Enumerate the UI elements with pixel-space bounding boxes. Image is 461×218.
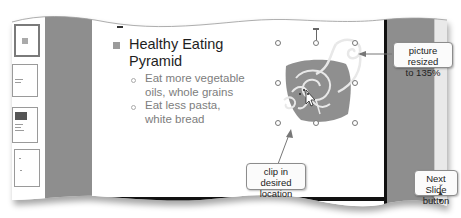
previous-slide-button[interactable]: ▲: [436, 189, 445, 197]
callout-picture-resized: picture resized to 135%: [393, 42, 453, 68]
next-slide-button[interactable]: ▼: [436, 197, 445, 205]
callout-arrows: [0, 0, 461, 218]
scroll-down-icon[interactable]: ⌄: [436, 180, 445, 188]
callout-clip-location: clip in desired location: [246, 163, 306, 190]
